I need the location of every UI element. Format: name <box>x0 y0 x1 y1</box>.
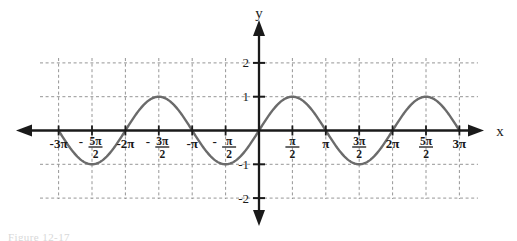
svg-text:2: 2 <box>159 148 165 160</box>
x-tick-label-fraction: -5π2 <box>79 134 103 160</box>
x-axis-arrow-right <box>468 125 484 137</box>
svg-text:2: 2 <box>290 148 296 160</box>
y-tick-label: -2 <box>238 191 249 206</box>
y-axis-label: y <box>255 5 263 21</box>
x-tick-label: -π <box>186 136 197 151</box>
figure-container: 21-1-2 -3π-5π2-2π-3π2-π-π2π2π3π22π5π23π … <box>0 0 517 241</box>
svg-text:5π: 5π <box>89 135 102 147</box>
x-tick-label-fraction: 3π2 <box>352 135 366 160</box>
x-tick-label: -3π <box>50 136 68 151</box>
x-tick-label: -2π <box>116 136 134 151</box>
y-tick-label: 1 <box>243 89 250 104</box>
svg-text:3π: 3π <box>353 135 366 147</box>
y-tick-label: 2 <box>243 55 250 70</box>
x-tick-label-fraction: π2 <box>285 135 299 160</box>
svg-text:π: π <box>289 135 296 147</box>
svg-text:-: - <box>79 134 83 149</box>
svg-text:2: 2 <box>356 148 362 160</box>
figure-caption: Figure 12-17 <box>8 232 70 241</box>
x-tick-label-fraction: 5π2 <box>419 135 433 160</box>
y-tick-label: -1 <box>238 157 249 172</box>
x-axis-label: x <box>496 123 504 139</box>
svg-text:3π: 3π <box>156 135 169 147</box>
svg-text:2: 2 <box>423 148 429 160</box>
y-axis-arrow-up <box>253 20 265 36</box>
svg-text:2: 2 <box>226 148 232 160</box>
x-tick-label: 2π <box>386 136 400 151</box>
x-tick-label: π <box>322 136 329 151</box>
svg-text:2: 2 <box>93 148 99 160</box>
x-axis <box>16 125 484 137</box>
x-tick-label: 3π <box>453 136 467 151</box>
svg-text:5π: 5π <box>420 135 433 147</box>
x-tick-label-fraction: -3π2 <box>146 134 170 160</box>
x-tick-label-fraction: -π2 <box>212 134 236 160</box>
svg-text:π: π <box>226 135 233 147</box>
y-axis-arrow-down <box>253 210 265 226</box>
svg-text:-: - <box>212 134 216 149</box>
x-axis-arrow-left <box>16 125 32 137</box>
sine-wave-plot: 21-1-2 -3π-5π2-2π-3π2-π-π2π2π3π22π5π23π … <box>0 0 517 241</box>
svg-text:-: - <box>146 134 150 149</box>
